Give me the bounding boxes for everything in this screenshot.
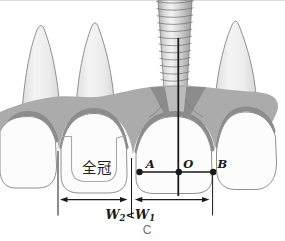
point-b-label: B bbox=[216, 157, 227, 171]
dental-implant bbox=[156, 0, 194, 100]
arrowhead-w1-left bbox=[135, 197, 143, 202]
tooth-root-right bbox=[215, 21, 257, 100]
point-o-dot bbox=[176, 169, 182, 175]
figure-canvas: 全冠 A O B W2<W1 C bbox=[0, 0, 285, 241]
arrowhead-w2-right bbox=[120, 197, 128, 202]
tooth-crown-3-implant-site bbox=[136, 117, 212, 194]
point-a-dot bbox=[136, 169, 142, 175]
implant-body bbox=[158, 0, 192, 100]
tooth-crown-4 bbox=[217, 112, 277, 190]
panel-caption: C bbox=[143, 223, 152, 237]
arrowhead-w1-right bbox=[202, 197, 210, 202]
full-crown-label: 全冠 bbox=[82, 159, 112, 176]
point-o-label: O bbox=[183, 157, 193, 171]
arrowhead-w2-left bbox=[60, 197, 68, 202]
point-a-label: A bbox=[145, 157, 155, 171]
tooth-crown-1 bbox=[0, 117, 57, 189]
tooth-root-left-2 bbox=[76, 23, 115, 106]
dimension-comparison-label: W2<W1 bbox=[106, 207, 156, 223]
point-b-dot bbox=[210, 169, 216, 175]
dental-implant-figure-panel-c: 全冠 A O B W2<W1 C bbox=[0, 0, 285, 241]
